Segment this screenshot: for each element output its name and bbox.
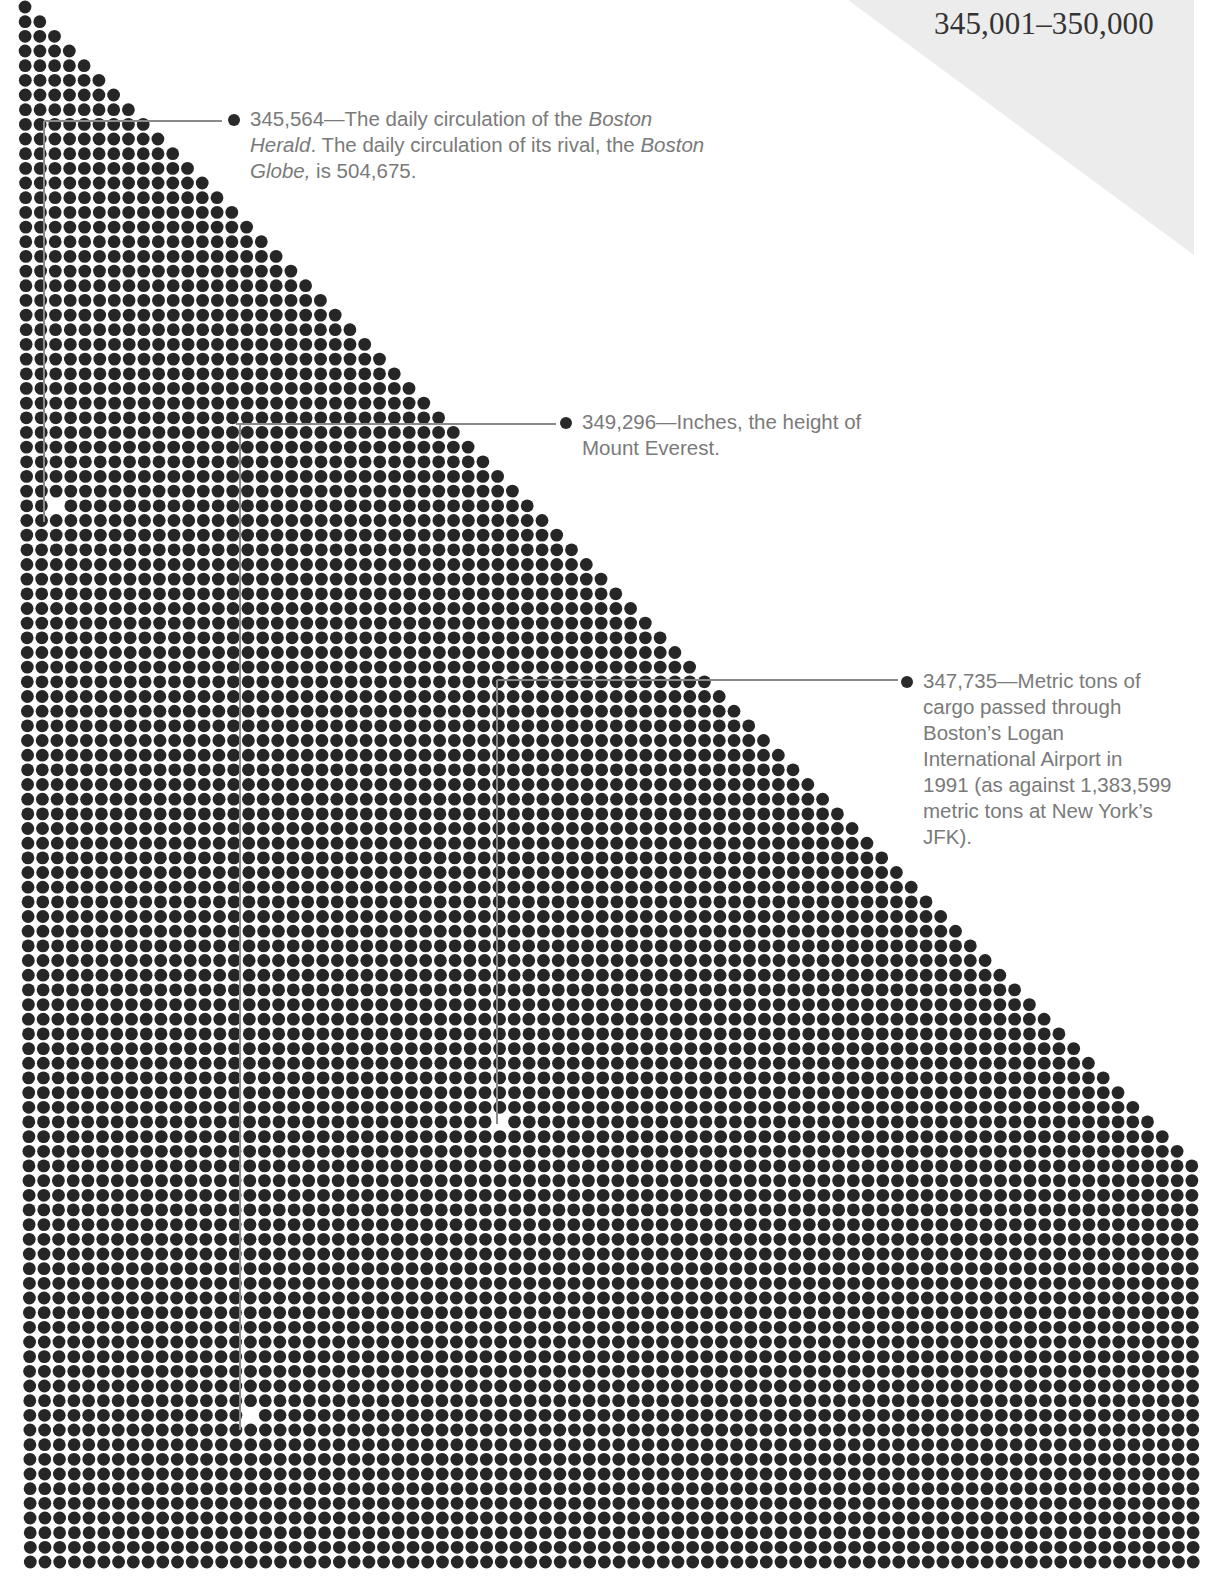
annotation-text-part: . The daily circulation of its rival, th… bbox=[310, 133, 640, 156]
annotation-text: 347,735—Metric tons of cargo passed thro… bbox=[923, 668, 1173, 850]
annotation-logan-cargo: 347,735—Metric tons of cargo passed thro… bbox=[923, 668, 1173, 850]
annotation-text-part: 345,564—The daily circulation of the bbox=[250, 107, 588, 130]
bullet-icon bbox=[228, 114, 240, 126]
annotation-text-part: 347,735—Metric tons of cargo passed thro… bbox=[923, 669, 1171, 848]
annotation-text: 345,564—The daily circulation of the Bos… bbox=[250, 106, 720, 184]
annotation-text-part: is 504,675. bbox=[310, 159, 416, 182]
annotation-boston-herald: 345,564—The daily circulation of the Bos… bbox=[250, 106, 720, 184]
bullet-icon bbox=[901, 676, 913, 688]
annotation-text-part: 349,296—Inches, the height of Mount Ever… bbox=[582, 410, 861, 459]
annotation-mount-everest: 349,296—Inches, the height of Mount Ever… bbox=[582, 409, 892, 461]
bullet-icon bbox=[560, 417, 572, 429]
annotation-text: 349,296—Inches, the height of Mount Ever… bbox=[582, 409, 892, 461]
